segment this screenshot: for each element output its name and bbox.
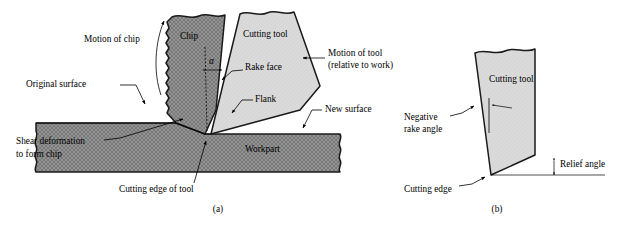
- panel-b: Relief angle Cutting tool Negative rake …: [404, 49, 605, 215]
- negative-rake-angle-leader: [450, 106, 474, 116]
- figure-canvas: α Chip Cutting tool Workpart Motion of c…: [0, 0, 628, 227]
- figure-machining-chip-formation: α Chip Cutting tool Workpart Motion of c…: [0, 0, 628, 227]
- subcaption-b: (b): [492, 204, 503, 215]
- relief-angle-label: Relief angle: [560, 159, 605, 169]
- workpart-shape: [35, 123, 341, 172]
- cutting-edge-label: Cutting edge: [404, 184, 452, 194]
- new-surface-leader: [303, 110, 322, 128]
- cutting-tool-shape-b: [475, 49, 535, 175]
- negative-rake-angle-label-line1: Negative: [404, 112, 438, 122]
- cutting-tool-label-b: Cutting tool: [489, 74, 534, 84]
- panel-a: α Chip Cutting tool Workpart Motion of c…: [16, 12, 393, 215]
- cutting-edge-leader: [459, 177, 485, 186]
- shear-deformation-label-line1: Shear deformation: [16, 136, 85, 146]
- motion-of-chip-arrow: [156, 21, 164, 95]
- subcaption-a: (a): [213, 204, 223, 215]
- workpart-label: Workpart: [245, 144, 280, 154]
- motion-of-tool-label-line2: (relative to work): [328, 60, 393, 71]
- original-surface-leader: [120, 85, 145, 104]
- negative-rake-angle-label-line2: rake angle: [404, 124, 442, 134]
- motion-of-chip-label: Motion of chip: [84, 34, 140, 44]
- rake-face-label: Rake face: [245, 62, 282, 72]
- original-surface-label: Original surface: [26, 79, 86, 89]
- motion-of-tool-label-line1: Motion of tool: [328, 48, 383, 58]
- cutting-edge-of-tool-label: Cutting edge of tool: [119, 184, 194, 194]
- shear-deformation-label-line2: to form chip: [16, 149, 62, 159]
- new-surface-label: New surface: [325, 104, 372, 114]
- chip-label: Chip: [180, 31, 198, 41]
- flank-label: Flank: [255, 94, 277, 104]
- cutting-tool-label-a: Cutting tool: [243, 29, 288, 39]
